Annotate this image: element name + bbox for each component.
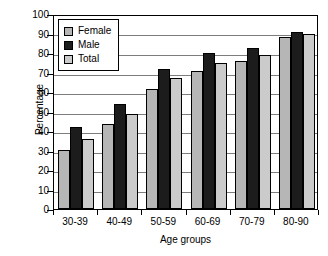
x-tick-mark — [97, 210, 98, 215]
legend-swatch-total-icon — [64, 55, 73, 64]
x-tick-mark — [186, 210, 187, 215]
bar-total-50-59 — [170, 78, 182, 209]
bar-total-30-39 — [82, 139, 94, 209]
y-tick-label: 50 — [23, 108, 49, 118]
legend-swatch-male-icon — [64, 41, 73, 50]
x-tick-label: 60-69 — [186, 216, 230, 227]
bar-group — [142, 16, 186, 209]
legend-item-total: Total — [64, 52, 111, 66]
x-tick-mark — [141, 210, 142, 215]
bar-female-50-59 — [146, 89, 158, 209]
legend-swatch-female-icon — [64, 27, 73, 36]
bar-total-80-90 — [303, 34, 315, 209]
legend-label-female: Female — [78, 26, 111, 36]
y-tick-label: 30 — [23, 147, 49, 157]
y-tick-label: 80 — [23, 49, 49, 59]
bar-male-70-79 — [247, 48, 259, 209]
x-tick-label: 30-39 — [53, 216, 97, 227]
bar-male-30-39 — [70, 127, 82, 209]
y-tick-label: 10 — [23, 186, 49, 196]
x-tick-label: 80-90 — [274, 216, 318, 227]
legend-item-female: Female — [64, 24, 111, 38]
y-tick-label: 20 — [23, 166, 49, 176]
y-tick-label: 100 — [23, 10, 49, 20]
bar-male-50-59 — [158, 69, 170, 209]
y-tick-label: 0 — [23, 205, 49, 215]
bar-female-80-90 — [279, 37, 291, 209]
legend: Female Male Total — [58, 19, 119, 71]
bar-female-70-79 — [235, 61, 247, 209]
bar-female-30-39 — [58, 150, 70, 209]
x-tick-label: 40-49 — [97, 216, 141, 227]
legend-label-male: Male — [78, 40, 100, 50]
legend-label-total: Total — [78, 54, 99, 64]
bar-group — [275, 16, 319, 209]
x-tick-mark — [230, 210, 231, 215]
bar-female-60-69 — [191, 71, 203, 209]
bar-group — [231, 16, 275, 209]
y-tick-label: 60 — [23, 88, 49, 98]
y-tick-label: 40 — [23, 127, 49, 137]
bar-chart: Percentage 0102030405060708090100 30-394… — [0, 0, 328, 256]
bar-total-40-49 — [126, 114, 138, 209]
bar-male-60-69 — [203, 53, 215, 209]
x-tick-label: 50-59 — [141, 216, 185, 227]
bar-total-60-69 — [215, 63, 227, 209]
y-tick-label: 90 — [23, 30, 49, 40]
bar-female-40-49 — [102, 124, 114, 209]
y-tick-label: 70 — [23, 69, 49, 79]
x-tick-mark — [274, 210, 275, 215]
bar-male-80-90 — [291, 32, 303, 209]
bar-male-40-49 — [114, 104, 126, 209]
x-tick-mark — [318, 210, 319, 215]
legend-item-male: Male — [64, 38, 111, 52]
x-tick-label: 70-79 — [230, 216, 274, 227]
x-axis-title: Age groups — [53, 234, 318, 245]
bar-total-70-79 — [259, 55, 271, 209]
bar-group — [187, 16, 231, 209]
x-tick-mark — [53, 210, 54, 215]
